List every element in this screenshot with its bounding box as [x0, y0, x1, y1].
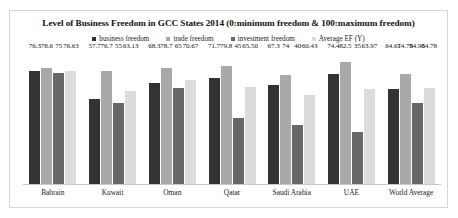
bar-column: 67.3 [268, 51, 279, 184]
bar[interactable]: 54.95 [412, 103, 423, 184]
bar-value-label: 74 [282, 43, 289, 50]
bar[interactable]: 63.13 [125, 91, 136, 184]
bar[interactable]: 82.5 [340, 62, 351, 184]
legend-swatch-icon [92, 37, 96, 41]
bar-value-label: 74.4 [327, 43, 339, 50]
bar-value-label: 76.3 [29, 43, 41, 50]
bar-column: 64.61 [388, 51, 399, 184]
category-label: Kuwait [83, 188, 143, 197]
bar-value-label: 67.3 [268, 43, 280, 50]
bar-column: 60.43 [304, 51, 315, 184]
bar-column: 76.3 [29, 51, 40, 184]
bar-group: 76.378.67576.63 [23, 51, 83, 184]
bar[interactable]: 40 [292, 125, 303, 184]
bar[interactable]: 45 [233, 118, 244, 185]
bar-column: 64.78 [424, 51, 435, 184]
bar-column: 78.6 [41, 51, 52, 184]
bar-value-label: 35 [354, 43, 361, 50]
bar-column: 74 [280, 51, 291, 184]
bar-value-label: 60.43 [302, 43, 318, 50]
bar-value-label: 76.7 [100, 43, 112, 50]
bar-value-label: 82.5 [339, 43, 351, 50]
category-axis-labels: BahrainKuwaitOmanQatarSaudi ArabiaUAEWor… [23, 188, 441, 197]
bar-value-label: 55 [115, 43, 122, 50]
bar-column: 65.50 [245, 51, 256, 184]
bar-column: 76.7 [101, 51, 112, 184]
bar[interactable]: 74.78 [400, 74, 411, 185]
bar[interactable]: 76.63 [65, 71, 76, 184]
bar-column: 63.97 [364, 51, 375, 184]
bar[interactable]: 74 [280, 75, 291, 184]
bar-column: 79.8 [221, 51, 232, 184]
category-label: Saudi Arabia [262, 188, 322, 197]
bar-value-label: 63.97 [362, 43, 378, 50]
bar-group: 67.3744060.43 [262, 51, 322, 184]
bar-value-label: 65 [175, 43, 182, 50]
bar[interactable]: 57.7 [89, 99, 100, 184]
category-label: World Average [381, 188, 441, 197]
bar-column: 54.95 [412, 51, 423, 184]
bar-group: 64.6174.7854.9564.78 [381, 51, 441, 184]
bar[interactable]: 55 [113, 103, 124, 184]
bar-value-label: 79.8 [220, 43, 232, 50]
bar-column: 74.4 [328, 51, 339, 184]
bar-value-label: 64.78 [421, 43, 437, 50]
bar-value-label: 78.6 [41, 43, 53, 50]
bar-group: 57.776.75563.13 [83, 51, 143, 184]
bar-column: 70.67 [185, 51, 196, 184]
bar-column: 65 [173, 51, 184, 184]
bar-value-label: 71.7 [208, 43, 220, 50]
bar[interactable]: 65.50 [245, 87, 256, 184]
bar[interactable]: 76.3 [29, 71, 40, 184]
bar[interactable]: 67.3 [268, 85, 279, 184]
bar-value-label: 45 [235, 43, 242, 50]
bar[interactable]: 79.8 [221, 66, 232, 184]
bar-value-label: 76.63 [63, 43, 79, 50]
bar[interactable]: 64.78 [424, 88, 435, 184]
bar[interactable]: 71.7 [209, 78, 220, 184]
bar-group: 68.378.76570.67 [142, 51, 202, 184]
bar-value-label: 40 [294, 43, 301, 50]
bar-column: 55 [113, 51, 124, 184]
bar-column: 76.63 [65, 51, 76, 184]
bar[interactable]: 64.61 [388, 89, 399, 184]
bar[interactable]: 65 [173, 88, 184, 184]
bar-column: 45 [233, 51, 244, 184]
category-label: Oman [142, 188, 202, 197]
legend-swatch-icon [231, 37, 235, 41]
legend-swatch-icon [166, 37, 170, 41]
bar-column: 78.7 [161, 51, 172, 184]
bar-value-label: 75 [55, 43, 62, 50]
bar-value-label: 63.13 [123, 43, 139, 50]
bar-group: 74.482.53563.97 [322, 51, 382, 184]
bar[interactable]: 78.6 [41, 68, 52, 184]
bar[interactable]: 68.3 [149, 83, 160, 184]
legend-swatch-icon [312, 37, 316, 41]
bar[interactable]: 63.97 [364, 89, 375, 184]
bar[interactable]: 70.67 [185, 80, 196, 184]
bar-column: 57.7 [89, 51, 100, 184]
bar-column: 40 [292, 51, 303, 184]
bar-groups: 76.378.67576.6357.776.75563.1368.378.765… [23, 51, 441, 184]
bar[interactable]: 35 [352, 132, 363, 184]
bar-value-label: 65.50 [242, 43, 258, 50]
bar-column: 68.3 [149, 51, 160, 184]
bar[interactable]: 75 [53, 73, 64, 184]
bar[interactable]: 60.43 [304, 95, 315, 184]
bar[interactable]: 76.7 [101, 71, 112, 184]
bar-group: 71.779.84565.50 [202, 51, 262, 184]
bar-value-label: 68.3 [148, 43, 160, 50]
bar[interactable]: 78.7 [161, 68, 172, 184]
bar[interactable]: 74.4 [328, 74, 339, 184]
bar-column: 63.13 [125, 51, 136, 184]
category-label: UAE [322, 188, 382, 197]
bar-column: 71.7 [209, 51, 220, 184]
category-axis-line [23, 184, 441, 185]
category-label: Qatar [202, 188, 262, 197]
bar-column: 82.5 [340, 51, 351, 184]
chart-title: Level of Business Freedom in GCC States … [10, 18, 447, 28]
bar-value-label: 70.67 [182, 43, 198, 50]
bar-column: 75 [53, 51, 64, 184]
bar-column: 74.78 [400, 51, 411, 184]
bar-column: 35 [352, 51, 363, 184]
